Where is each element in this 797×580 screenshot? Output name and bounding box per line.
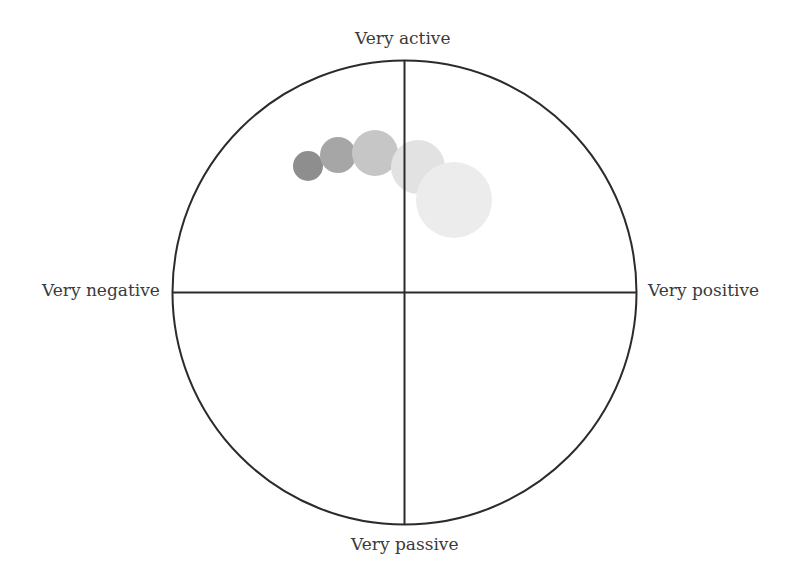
- bubble-2: [320, 137, 356, 173]
- axis-label-very-negative: Very negative: [42, 282, 160, 299]
- bubble-5: [416, 162, 492, 238]
- axis-label-very-active: Very active: [355, 30, 451, 47]
- axis-label-very-positive: Very positive: [648, 282, 759, 299]
- bubble-1: [293, 151, 323, 181]
- axis-label-very-passive: Very passive: [351, 536, 458, 553]
- bubble-series: [293, 130, 492, 238]
